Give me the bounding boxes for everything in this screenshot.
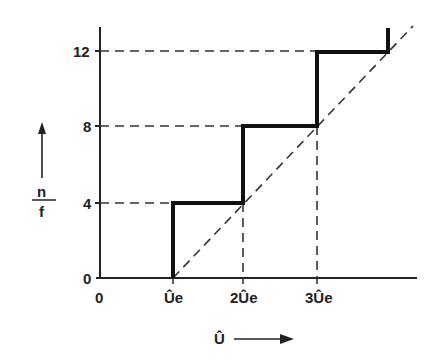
y-arrow-icon [38,122,46,134]
x-arrow-icon [280,334,294,344]
x-axis-label: Û [214,331,225,346]
x-tick-3: 3Ûe [305,290,333,305]
diagram [0,0,439,360]
staircase-curve [173,28,388,278]
y-tick-0: 0 [83,271,91,286]
guide-lines [100,26,413,284]
x-tick-1: Ûe [164,290,183,305]
y-label-den: f [39,204,44,219]
x-tick-0: 0 [95,290,103,305]
y-tick-12: 12 [73,44,90,59]
y-label-num: n [37,184,46,199]
y-tick-8: 8 [83,119,91,134]
diagonal-line [173,26,413,278]
x-tick-2: 2Ûe [230,290,258,305]
y-tick-4: 4 [83,196,91,211]
